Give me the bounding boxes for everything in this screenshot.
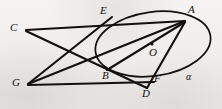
- point-label-c: C: [10, 22, 17, 33]
- point-label-d: D: [142, 88, 150, 99]
- segment-g-f: [28, 82, 154, 85]
- point-label-g: G: [12, 77, 20, 88]
- point-label-b: B: [102, 70, 109, 81]
- conic-label-alpha: α: [186, 72, 191, 82]
- point-label-o: O: [149, 47, 157, 58]
- geometry-figure: A E C G B O F D α: [0, 0, 222, 109]
- point-label-f: F: [154, 73, 161, 84]
- segment-a-b: [107, 22, 185, 70]
- point-label-a: A: [188, 4, 195, 15]
- geometry-canvas: [0, 0, 222, 109]
- point-label-e: E: [100, 5, 107, 16]
